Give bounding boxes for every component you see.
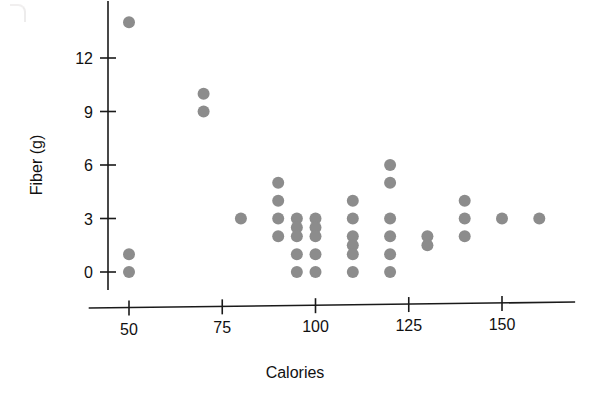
- ticks-group: [100, 58, 502, 316]
- x-tick-label-100: 100: [302, 318, 329, 335]
- data-point: [459, 195, 471, 207]
- data-point: [310, 230, 322, 242]
- x-tick-label-50: 50: [120, 321, 138, 338]
- data-point: [291, 266, 303, 278]
- x-tick-label-150: 150: [489, 316, 516, 333]
- data-point: [347, 213, 359, 225]
- data-point: [272, 230, 284, 242]
- x-tick-label-75: 75: [213, 319, 231, 336]
- scatter-chart: 0369125075100125150 Calories Fiber (g): [0, 0, 590, 395]
- axes-group: [89, 1, 575, 308]
- data-point: [123, 248, 135, 260]
- y-tick-label-0: 0: [84, 264, 93, 281]
- x-tick-label-125: 125: [395, 317, 422, 334]
- data-point: [123, 266, 135, 278]
- y-tick-label-3: 3: [84, 211, 93, 228]
- data-point: [291, 230, 303, 242]
- data-point: [310, 266, 322, 278]
- tick-labels-group: 0369125075100125150: [75, 50, 515, 338]
- data-point: [123, 16, 135, 28]
- data-point: [272, 195, 284, 207]
- data-point: [496, 213, 508, 225]
- data-point: [347, 266, 359, 278]
- data-point: [310, 248, 322, 260]
- data-point: [291, 248, 303, 260]
- y-tick-label-6: 6: [84, 157, 93, 174]
- data-point: [198, 106, 210, 118]
- data-point: [384, 159, 396, 171]
- data-points-group: [123, 16, 545, 278]
- data-point: [347, 248, 359, 260]
- data-point: [459, 230, 471, 242]
- data-point: [384, 248, 396, 260]
- x-axis-title: Calories: [266, 364, 325, 381]
- plot-area: 0369125075100125150 Calories Fiber (g): [0, 0, 590, 395]
- data-point: [272, 213, 284, 225]
- data-point: [235, 213, 247, 225]
- data-point: [272, 177, 284, 189]
- data-point: [198, 88, 210, 100]
- data-point: [347, 195, 359, 207]
- data-point: [421, 239, 433, 251]
- data-point: [459, 213, 471, 225]
- data-point: [384, 266, 396, 278]
- y-axis-title: Fiber (g): [28, 135, 45, 195]
- y-tick-label-12: 12: [75, 50, 93, 67]
- y-tick-label-9: 9: [84, 104, 93, 121]
- data-point: [533, 213, 545, 225]
- data-point: [384, 177, 396, 189]
- data-point: [384, 230, 396, 242]
- data-point: [384, 213, 396, 225]
